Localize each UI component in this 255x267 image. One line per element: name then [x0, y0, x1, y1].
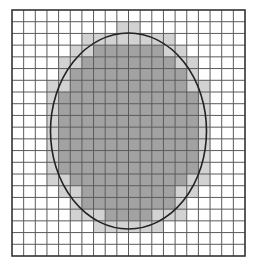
cell-partial: [163, 33, 175, 45]
cell-full: [152, 186, 164, 198]
cell-full: [152, 174, 164, 186]
cell-partial: [47, 174, 59, 186]
cell-full: [117, 92, 129, 104]
cell-full: [94, 80, 106, 92]
cell-full: [175, 115, 187, 127]
cell-full: [105, 115, 117, 127]
cell-full: [94, 186, 106, 198]
cell-full: [59, 139, 71, 151]
cell-full: [129, 104, 141, 116]
cell-partial: [129, 33, 141, 45]
cell-partial: [70, 186, 82, 198]
cell-full: [117, 174, 129, 186]
cell-full: [117, 186, 129, 198]
cell-full: [117, 57, 129, 69]
cell-partial: [70, 209, 82, 221]
cell-full: [82, 186, 94, 198]
cell-full: [94, 57, 106, 69]
cell-full: [59, 115, 71, 127]
cell-full: [152, 69, 164, 81]
cell-full: [82, 174, 94, 186]
cell-full: [94, 174, 106, 186]
cell-full: [140, 197, 152, 209]
cell-full: [152, 151, 164, 163]
cell-full: [117, 209, 129, 221]
cell-full: [117, 104, 129, 116]
cell-full: [105, 174, 117, 186]
cell-full: [163, 69, 175, 81]
cell-partial: [47, 127, 59, 139]
cell-full: [163, 162, 175, 174]
cell-partial: [47, 139, 59, 151]
cell-full: [129, 92, 141, 104]
cell-full: [187, 151, 199, 163]
cell-full: [140, 115, 152, 127]
cell-full: [94, 197, 106, 209]
cell-full: [117, 115, 129, 127]
cell-full: [70, 139, 82, 151]
cell-partial: [198, 115, 210, 127]
cell-full: [175, 69, 187, 81]
cell-full: [82, 197, 94, 209]
cell-full: [140, 92, 152, 104]
cell-full: [163, 186, 175, 198]
cell-full: [129, 151, 141, 163]
cell-full: [187, 162, 199, 174]
cell-partial: [175, 186, 187, 198]
cell-full: [117, 139, 129, 151]
cell-full: [94, 139, 106, 151]
cell-full: [140, 57, 152, 69]
cell-full: [163, 139, 175, 151]
cell-full: [70, 127, 82, 139]
cell-partial: [47, 115, 59, 127]
cell-full: [105, 127, 117, 139]
cell-full: [117, 69, 129, 81]
cell-full: [105, 57, 117, 69]
cell-full: [140, 186, 152, 198]
cell-partial: [117, 33, 129, 45]
cell-full: [140, 174, 152, 186]
cell-full: [70, 104, 82, 116]
cell-full: [129, 45, 141, 57]
cell-full: [152, 57, 164, 69]
cell-full: [82, 104, 94, 116]
cell-full: [175, 80, 187, 92]
cell-full: [70, 80, 82, 92]
cell-full: [105, 197, 117, 209]
cell-full: [117, 197, 129, 209]
cell-full: [175, 104, 187, 116]
cell-full: [105, 151, 117, 163]
cell-full: [187, 92, 199, 104]
cell-full: [82, 80, 94, 92]
cell-full: [140, 209, 152, 221]
cell-full: [59, 127, 71, 139]
cell-full: [82, 69, 94, 81]
cell-full: [163, 115, 175, 127]
cell-full: [163, 92, 175, 104]
cell-full: [105, 186, 117, 198]
cell-full: [82, 139, 94, 151]
cell-full: [94, 45, 106, 57]
ellipse-grid-diagram: [0, 0, 255, 267]
cell-full: [140, 104, 152, 116]
cell-full: [152, 139, 164, 151]
cell-full: [105, 80, 117, 92]
cell-full: [175, 151, 187, 163]
cell-full: [94, 104, 106, 116]
cell-full: [70, 115, 82, 127]
cell-full: [117, 80, 129, 92]
cell-full: [175, 92, 187, 104]
cell-full: [94, 92, 106, 104]
cell-full: [94, 127, 106, 139]
cell-full: [152, 104, 164, 116]
cell-full: [140, 80, 152, 92]
cell-partial: [117, 221, 129, 233]
cell-full: [163, 57, 175, 69]
cell-full: [163, 80, 175, 92]
cell-partial: [59, 57, 71, 69]
cell-full: [187, 127, 199, 139]
cell-full: [105, 162, 117, 174]
cell-full: [70, 69, 82, 81]
cell-full: [152, 197, 164, 209]
cell-full: [140, 162, 152, 174]
